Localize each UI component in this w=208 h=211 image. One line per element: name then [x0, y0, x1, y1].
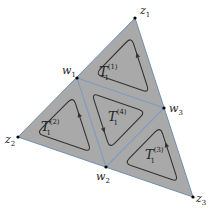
vertex-label-z3: z3: [195, 192, 206, 207]
vertex-dot-z2: [16, 135, 19, 138]
vertex-dot-z1: [133, 16, 136, 19]
outer-triangle: [18, 18, 193, 197]
vertex-label-w2: w2: [96, 170, 110, 185]
vertex-label-z2: z2: [4, 133, 15, 148]
vertex-dot-w3: [162, 106, 165, 109]
vertex-dot-w2: [104, 165, 107, 168]
vertex-label-z1: z1: [139, 4, 150, 19]
triangle-subdivision-diagram: z1 z2 z3 w1 w2 w3 T(1)1 T(2)1 T(3)1 T(4)…: [0, 0, 208, 211]
vertex-label-w3: w3: [169, 102, 183, 117]
vertex-dot-z3: [191, 195, 194, 198]
vertex-label-w1: w1: [62, 64, 76, 79]
